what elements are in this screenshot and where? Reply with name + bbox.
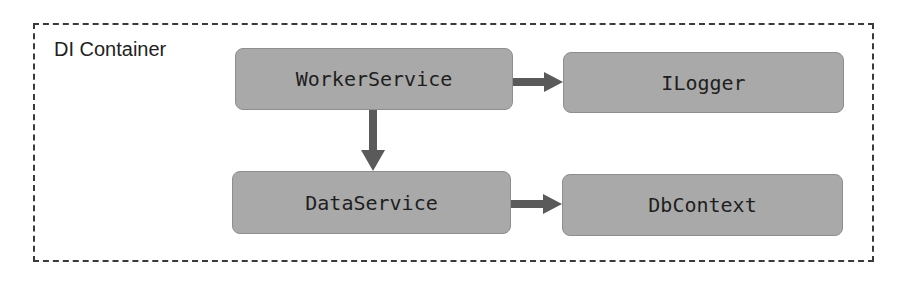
arrow-worker-to-data	[361, 110, 385, 171]
arrow-worker-to-logger	[513, 72, 563, 92]
arrow-data-to-db	[511, 194, 562, 214]
edges-layer	[0, 0, 899, 284]
